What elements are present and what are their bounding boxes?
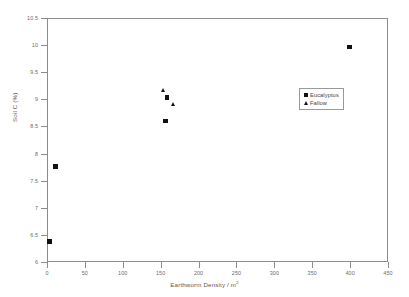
legend-item-label: Eucalyptus [310,91,339,99]
scatter-chart-figure: 66.577.588.599.51010.5 05010015020025030… [0,0,409,297]
legend-item-eucalyptus[interactable]: Eucalyptus [303,91,339,99]
x-tick-label: 100 [118,270,127,276]
y-tick-label: 8.5 [30,123,38,129]
x-tick-label: 450 [383,270,392,276]
triangle-marker-icon [303,99,310,107]
x-axis-title: Earthworm Density / m2 [0,281,409,288]
legend-item-label: Fallow [310,99,327,107]
y-tick-label: 6 [35,259,38,265]
x-tick-mark [312,262,313,268]
y-tick-label: 7.5 [30,178,38,184]
triangle-marker-icon [171,102,175,106]
x-tick-label: 300 [270,270,279,276]
x-tick-mark [274,262,275,268]
y-tick-label: 10.5 [27,15,38,21]
x-tick-label: 0 [45,270,48,276]
x-tick-label: 250 [232,270,241,276]
square-marker-icon [165,95,169,99]
square-marker-icon [347,45,351,49]
y-tick-label: 7 [35,205,38,211]
x-tick-label: 50 [82,270,88,276]
x-tick-mark [85,262,86,268]
y-tick-label: 10 [32,42,38,48]
x-tick-label: 200 [194,270,203,276]
y-tick-label: 8 [35,151,38,157]
x-tick-mark [123,262,124,268]
x-axis-title-exponent: 2 [236,280,239,285]
legend-item-fallow[interactable]: Fallow [303,99,339,107]
x-tick-label: 350 [308,270,317,276]
x-axis-title-text: Earthworm Density / m [170,281,236,288]
y-axis-title: Soil C (%) [11,93,18,122]
y-tick-label: 9.5 [30,69,38,75]
square-marker-icon [303,91,310,99]
x-tick-mark [47,262,48,268]
square-marker-icon [53,164,57,168]
x-tick-label: 400 [345,270,354,276]
x-tick-label: 150 [156,270,165,276]
x-tick-mark [236,262,237,268]
x-tick-mark [350,262,351,268]
square-marker-icon [163,119,167,123]
x-tick-mark [388,262,389,268]
y-tick-label: 6.5 [30,232,38,238]
x-tick-mark [199,262,200,268]
y-tick-label: 9 [35,96,38,102]
square-marker-icon [47,239,51,243]
plot-area [47,18,388,262]
x-tick-mark [161,262,162,268]
triangle-marker-icon [161,88,165,92]
chart-legend: Eucalyptus Fallow [299,88,344,110]
